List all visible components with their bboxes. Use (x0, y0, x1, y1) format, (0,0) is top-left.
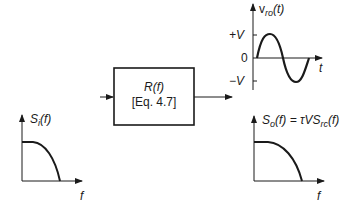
output-spectrum-label-mid: (f) = τVS (275, 113, 321, 127)
waveform-label-tail: (t) (273, 2, 284, 16)
waveform-label: vro(t) (259, 3, 284, 18)
input-spectrum-label-main: S (30, 112, 38, 126)
tick-label-plus-v: +V (229, 29, 244, 41)
waveform-t-axis-label: t (319, 62, 322, 74)
output-spectrum-curve (254, 142, 302, 181)
tick-label-minus-v: −V (229, 75, 244, 87)
output-spectrum-label-main: S (262, 113, 270, 127)
input-spectrum-curve (22, 142, 60, 181)
input-spectrum-label: Si(f) (30, 113, 51, 128)
output-spectrum-label-sub2: rc (321, 119, 329, 129)
waveform-label-sub: ro (265, 8, 273, 18)
output-spectrum-f-label: f (317, 190, 320, 202)
input-spectrum-label-tail: (f) (40, 112, 51, 126)
filter-block-label: R(f) [Eq. 4.7] (114, 80, 194, 110)
tick-label-zero: 0 (241, 52, 248, 64)
output-spectrum-label-tail: (f) (328, 113, 339, 127)
output-spectrum-label: So(f) = τVSrc(f) (262, 114, 339, 129)
filter-block-title: R(f) (114, 80, 194, 95)
input-spectrum-f-label: f (80, 190, 83, 202)
filter-block-subtitle: [Eq. 4.7] (114, 95, 194, 110)
